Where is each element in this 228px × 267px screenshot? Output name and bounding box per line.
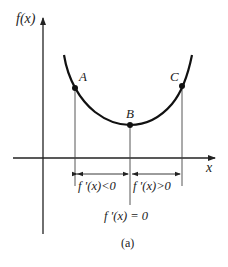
minimum-label: f '(x) = 0 (104, 209, 149, 223)
point-a-label: A (78, 69, 87, 84)
caption: (a) (121, 236, 134, 250)
point-b-label: B (126, 106, 134, 121)
point-c-marker (179, 83, 185, 89)
point-b-marker (127, 122, 133, 128)
y-axis-label: f(x) (16, 11, 36, 27)
point-c-label: C (170, 69, 179, 84)
point-a-marker (72, 85, 78, 91)
convex-function-diagram: f(x) x A B C f '(x)<0 f '(x)>0 f '(x) = … (0, 0, 228, 267)
arrowhead-left-2 (132, 172, 138, 176)
right-interval-label: f '(x)>0 (133, 179, 172, 193)
arrowhead-left (77, 172, 83, 176)
left-interval-label: f '(x)<0 (78, 179, 117, 193)
x-axis-label: x (205, 160, 213, 175)
